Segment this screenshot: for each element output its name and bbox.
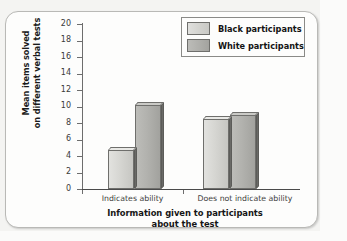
bar-top-face bbox=[135, 102, 164, 105]
legend-swatch-icon-black-participants bbox=[187, 22, 210, 35]
bar-front-face bbox=[135, 105, 161, 189]
y-axis-tick-4: 4 bbox=[74, 156, 82, 157]
page-background: Mean items solved on different verbal te… bbox=[0, 0, 347, 241]
y-axis-title-line-2: on different verbal tests bbox=[32, 3, 43, 143]
bar-side-face bbox=[256, 112, 259, 189]
y-axis-tick-label-10: 10 bbox=[61, 101, 71, 110]
y-axis-tick-label-2: 2 bbox=[66, 167, 71, 176]
y-axis-tick-10: 10 bbox=[74, 107, 82, 108]
bar-side-face bbox=[134, 147, 137, 189]
y-axis-tick-label-16: 16 bbox=[61, 52, 71, 61]
y-axis-tick-label-6: 6 bbox=[66, 134, 71, 143]
bar-side-face bbox=[161, 102, 164, 189]
legend-swatch-icon-white-participants bbox=[187, 39, 210, 52]
x-axis-category-label-1: Does not indicate ability bbox=[185, 194, 305, 203]
y-axis-title: Mean items solved on different verbal te… bbox=[21, 3, 51, 143]
legend-item-white-participants: White participants bbox=[187, 39, 301, 53]
x-axis-tick-start bbox=[82, 190, 83, 194]
x-axis-title-line-2: about the test bbox=[60, 219, 310, 230]
legend-label-black-participants: Black participants bbox=[218, 24, 302, 34]
y-axis-tick-6: 6 bbox=[74, 140, 82, 141]
y-axis-tick-label-0: 0 bbox=[66, 184, 71, 193]
x-axis-title: Information given to participants about … bbox=[60, 208, 310, 229]
bar-top-face bbox=[230, 112, 259, 115]
legend: Black participants White participants bbox=[181, 17, 305, 57]
y-axis-tick-2: 2 bbox=[74, 173, 82, 174]
y-axis-tick-0: 0 bbox=[74, 189, 82, 190]
y-axis-title-line-1: Mean items solved bbox=[21, 3, 32, 143]
bar-side-face bbox=[229, 116, 232, 189]
y-axis-tick-14: 14 bbox=[74, 74, 82, 75]
bar-black-participants-group-1 bbox=[203, 116, 232, 189]
y-axis-tick-12: 12 bbox=[74, 90, 82, 91]
y-axis-tick-label-4: 4 bbox=[66, 151, 71, 160]
x-axis-tick-middle bbox=[183, 190, 184, 194]
y-axis-tick-label-18: 18 bbox=[61, 35, 71, 44]
y-axis-tick-18: 18 bbox=[74, 41, 82, 42]
bar-front-face bbox=[230, 115, 256, 189]
x-axis-title-line-1: Information given to participants bbox=[60, 208, 310, 219]
y-axis-tick-label-12: 12 bbox=[61, 85, 71, 94]
bar-top-face bbox=[108, 147, 137, 150]
y-axis-tick-label-14: 14 bbox=[61, 68, 71, 77]
bar-white-participants-group-0 bbox=[135, 102, 164, 189]
bar-white-participants-group-1 bbox=[230, 112, 259, 189]
legend-item-black-participants: Black participants bbox=[187, 22, 301, 36]
bar-front-face bbox=[108, 150, 134, 189]
y-axis-tick-20: 20 bbox=[74, 24, 82, 25]
bar-black-participants-group-0 bbox=[108, 147, 137, 189]
y-axis-tick-16: 16 bbox=[74, 57, 82, 58]
y-axis-tick-label-8: 8 bbox=[66, 118, 71, 127]
legend-label-white-participants: White participants bbox=[218, 41, 304, 51]
y-axis-tick-8: 8 bbox=[74, 123, 82, 124]
y-axis-tick-label-20: 20 bbox=[61, 19, 71, 28]
bar-chart: Mean items solved on different verbal te… bbox=[0, 0, 347, 241]
bar-top-face bbox=[203, 116, 232, 119]
bar-front-face bbox=[203, 119, 229, 189]
x-axis-category-label-0: Indicates ability bbox=[85, 194, 180, 203]
